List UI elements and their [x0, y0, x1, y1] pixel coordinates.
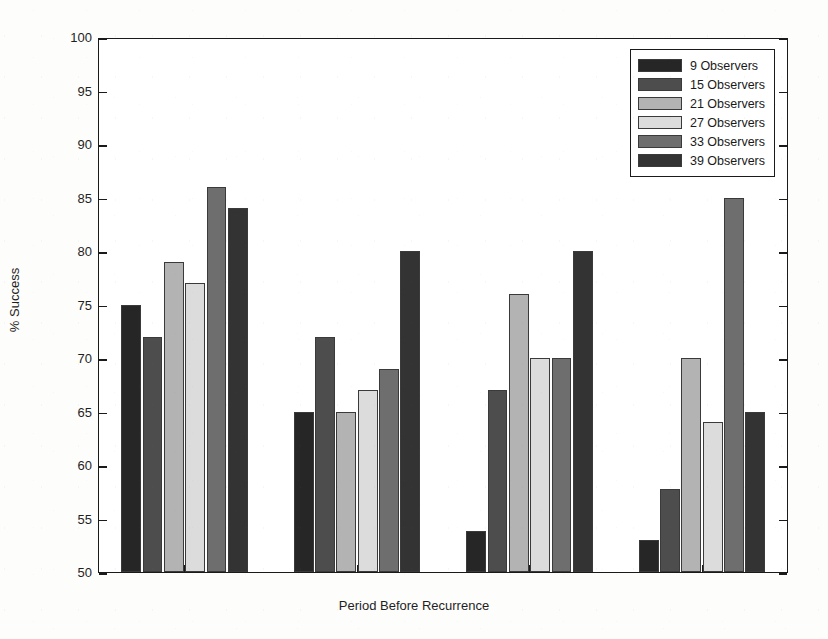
bar: [400, 251, 420, 572]
legend-item: 39 Observers: [638, 151, 765, 170]
y-tick-mark: [99, 306, 107, 308]
legend-swatch: [638, 116, 682, 129]
y-tick-mark: [99, 145, 107, 147]
y-tick-label: 65: [78, 405, 92, 420]
y-tick-mark: [99, 520, 107, 522]
bar-chart-figure: % Success 50556065707580859095100 102020…: [0, 0, 828, 639]
bar: [207, 187, 227, 572]
bar: [143, 337, 163, 572]
y-tick-mark-right: [779, 252, 787, 254]
y-axis-label: % Success: [7, 268, 22, 332]
y-tick-mark-right: [779, 413, 787, 415]
bar: [185, 283, 205, 572]
legend-item: 27 Observers: [638, 113, 765, 132]
bar: [681, 358, 701, 572]
y-tick-label: 60: [78, 458, 92, 473]
y-tick-mark-right: [779, 466, 787, 468]
legend-item: 15 Observers: [638, 75, 765, 94]
y-tick-mark-right: [779, 306, 787, 308]
y-tick-label: 50: [78, 565, 92, 580]
bar: [552, 358, 572, 572]
y-tick-mark-right: [779, 520, 787, 522]
y-tick-label: 55: [78, 512, 92, 527]
bar: [379, 369, 399, 572]
legend-item: 9 Observers: [638, 56, 765, 75]
bar: [315, 337, 335, 572]
legend-label: 27 Observers: [690, 116, 765, 130]
y-tick-mark-right: [779, 38, 787, 40]
legend-swatch: [638, 154, 682, 167]
y-tick-label: 100: [70, 30, 92, 45]
y-tick-label: 95: [78, 84, 92, 99]
legend-swatch: [638, 78, 682, 91]
y-tick-mark: [99, 413, 107, 415]
y-tick-mark: [99, 252, 107, 254]
y-tick-label: 90: [78, 137, 92, 152]
legend-label: 21 Observers: [690, 97, 765, 111]
legend-label: 9 Observers: [690, 59, 758, 73]
bar: [639, 540, 659, 572]
legend-label: 39 Observers: [690, 154, 765, 168]
y-tick-label: 75: [78, 298, 92, 313]
bar: [509, 294, 529, 572]
bar: [724, 198, 744, 573]
y-tick-mark-right: [779, 199, 787, 201]
legend-item: 33 Observers: [638, 132, 765, 151]
bar: [660, 489, 680, 572]
y-tick-label: 85: [78, 191, 92, 206]
y-tick-mark: [99, 359, 107, 361]
y-tick-mark: [99, 466, 107, 468]
legend-swatch: [638, 97, 682, 110]
bar: [294, 412, 314, 573]
y-tick-mark-right: [779, 573, 787, 575]
bar: [336, 412, 356, 573]
bar: [573, 251, 593, 572]
legend-label: 33 Observers: [690, 135, 765, 149]
y-tick-mark-right: [779, 92, 787, 94]
y-tick-mark-right: [779, 145, 787, 147]
y-tick-mark: [99, 92, 107, 94]
legend-swatch: [638, 135, 682, 148]
y-tick-mark: [99, 38, 107, 40]
bar: [488, 390, 508, 572]
bar: [530, 358, 550, 572]
y-tick-mark: [99, 573, 107, 575]
y-tick-mark: [99, 199, 107, 201]
legend-item: 21 Observers: [638, 94, 765, 113]
y-tick-mark-right: [779, 359, 787, 361]
y-tick-label: 80: [78, 244, 92, 259]
bar: [121, 305, 141, 573]
legend: 9 Observers15 Observers21 Observers27 Ob…: [630, 49, 775, 177]
bar: [228, 208, 248, 572]
legend-swatch: [638, 59, 682, 72]
legend-label: 15 Observers: [690, 78, 765, 92]
bar: [466, 531, 486, 572]
bar: [745, 412, 765, 573]
y-tick-label: 70: [78, 351, 92, 366]
bar: [164, 262, 184, 572]
bar: [358, 390, 378, 572]
bar: [703, 422, 723, 572]
x-axis-label: Period Before Recurrence: [0, 598, 828, 613]
plot-frame: 50556065707580859095100 10202040 9 Obser…: [98, 38, 788, 573]
